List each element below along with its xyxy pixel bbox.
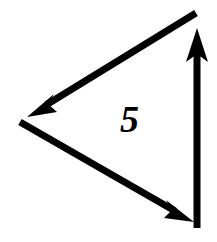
figure-canvas: 5 [0,0,217,242]
side-length-label: 5 [120,100,139,138]
diagram-background [0,0,217,242]
vector-triangle-diagram [0,0,217,242]
